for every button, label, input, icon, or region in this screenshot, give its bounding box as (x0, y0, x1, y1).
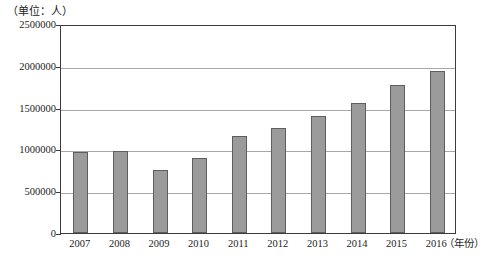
x-axis-tick-label: 2007 (58, 237, 102, 251)
x-axis-tick-label: 2011 (216, 237, 260, 251)
x-axis-tick-label: 2014 (335, 237, 379, 251)
y-axis-tick-label: 1500000 (2, 104, 56, 114)
y-axis-tick-label: 1000000 (2, 145, 56, 155)
bar (390, 85, 405, 233)
x-axis-tick-label: 2010 (177, 237, 221, 251)
plot-area (60, 25, 456, 234)
y-axis-tick-labels: 05000001000000150000020000002500000 (0, 0, 56, 266)
bar (192, 158, 207, 233)
y-axis-tick-label: 2500000 (2, 20, 56, 30)
bar (351, 103, 366, 233)
gridline (61, 68, 455, 69)
x-axis-tick-label: 2012 (256, 237, 300, 251)
x-axis-tick-label: 2013 (295, 237, 339, 251)
bar (73, 152, 88, 233)
x-axis-tick-labels: （年份） 20072008200920102011201220132014201… (0, 237, 488, 255)
y-axis-tick-mark (56, 234, 61, 235)
bar (153, 170, 168, 233)
bar-chart-figure: （单位：人） 050000010000001500000200000025000… (0, 0, 488, 266)
x-axis-tick-label: 2008 (97, 237, 141, 251)
bar (311, 116, 326, 233)
bar (430, 71, 445, 233)
x-axis-tick-label: 2016 (414, 237, 458, 251)
y-axis-tick-label: 500000 (2, 187, 56, 197)
bar (113, 151, 128, 233)
x-axis-tick-label: 2015 (375, 237, 419, 251)
x-axis-tick-label: 2009 (137, 237, 181, 251)
bar (271, 128, 286, 233)
y-axis-tick-label: 2000000 (2, 62, 56, 72)
bar (232, 136, 247, 233)
